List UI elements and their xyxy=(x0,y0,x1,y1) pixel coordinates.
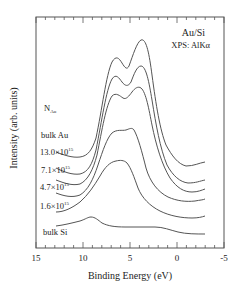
y-axis-label: Intensity (arb. units) xyxy=(8,87,20,168)
spectra-curves xyxy=(56,40,205,234)
xps-chart: 15 10 5 0 -5 Binding Energy (eV) Intensi… xyxy=(0,0,242,300)
x-tick-label: -5 xyxy=(220,253,228,263)
x-tick-label: 10 xyxy=(79,253,89,263)
x-tick-label: 5 xyxy=(128,253,133,263)
chart-subtitle: XPS: AlKα xyxy=(171,40,210,50)
curve-bulk-si xyxy=(56,217,205,234)
x-tick-label: 0 xyxy=(175,253,180,263)
n-au-header: NAu xyxy=(44,103,57,114)
curve-7-1e15 xyxy=(56,87,205,192)
label-4-7e15: 4.7×1015 xyxy=(40,182,69,192)
chart-title: Au/Si xyxy=(182,27,206,38)
curve-labels: NAu bulk Au 13.0×1015 7.1×1015 4.7×1015 … xyxy=(40,103,74,237)
label-1-6e15: 1.6×1015 xyxy=(40,201,69,211)
curve-13-0e15 xyxy=(56,66,205,183)
label-bulk-au: bulk Au xyxy=(41,130,69,140)
label-bulk-si: bulk Si xyxy=(43,227,68,237)
x-tick-labels: 15 10 5 0 -5 xyxy=(32,253,229,263)
x-tick-label: 15 xyxy=(32,253,42,263)
curve-1-6e15 xyxy=(56,160,205,218)
curve-bulk-au xyxy=(56,40,205,166)
x-axis-label: Binding Energy (eV) xyxy=(88,270,172,282)
label-7-1e15: 7.1×1015 xyxy=(41,165,70,175)
